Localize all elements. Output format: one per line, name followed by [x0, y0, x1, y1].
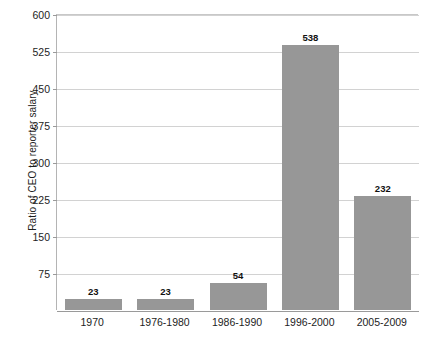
bar-value-label: 538 [302, 32, 318, 43]
axis-baseline [57, 311, 419, 312]
bar: 23 [137, 299, 194, 310]
y-axis-tick-label: 375 [32, 121, 50, 132]
bar-value-label: 23 [88, 286, 99, 297]
y-axis-tick [53, 237, 57, 238]
y-axis-tick-label: 450 [32, 84, 50, 95]
x-axis-tick-label: 1996-2000 [284, 316, 334, 328]
gridline [57, 15, 419, 16]
y-axis-tick [53, 163, 57, 164]
y-axis-tick-label: 300 [32, 158, 50, 169]
plot-area: 75150225300375450525600 232354538232 [56, 14, 418, 310]
gridline [57, 52, 419, 53]
bar: 23 [65, 299, 122, 310]
y-axis-tick-label: 600 [32, 10, 50, 21]
bar: 538 [282, 45, 339, 310]
y-axis-tick [53, 200, 57, 201]
y-axis-tick-label: 75 [38, 269, 50, 280]
bar: 232 [354, 196, 411, 310]
bar-chart: Ratio of CEO to reporter salary 75150225… [0, 0, 430, 345]
bar: 54 [210, 283, 267, 310]
gridline [57, 89, 419, 90]
x-axis-tick-label: 1986-1990 [212, 316, 262, 328]
x-axis-tick-label: 2005-2009 [357, 316, 407, 328]
gridline [57, 163, 419, 164]
bar-value-label: 232 [375, 183, 391, 194]
y-axis-tick [53, 15, 57, 16]
y-axis-tick [53, 52, 57, 53]
gridline [57, 126, 419, 127]
y-axis-tick [53, 126, 57, 127]
y-axis-tick-label: 150 [32, 232, 50, 243]
y-axis-tick-label: 225 [32, 195, 50, 206]
bar-value-label: 23 [160, 286, 171, 297]
y-axis-tick [53, 274, 57, 275]
x-axis-tick-label: 1976-1980 [139, 316, 189, 328]
y-axis-tick-label: 525 [32, 47, 50, 58]
bar-value-label: 54 [233, 270, 244, 281]
y-axis-tick [53, 89, 57, 90]
x-axis-tick-label: 1970 [81, 316, 104, 328]
